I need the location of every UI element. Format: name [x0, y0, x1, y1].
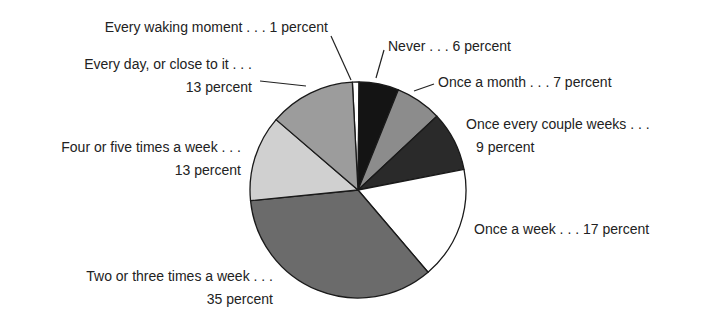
leader-once-month	[414, 84, 434, 91]
label-every-waking-moment: Every waking moment . . . 1 percent	[105, 19, 328, 36]
label-two-three-line2: 35 percent	[86, 291, 273, 308]
label-every-day-line1: Every day, or close to it . . .	[84, 56, 252, 73]
label-every-day: Every day, or close to it . . . 13 perce…	[84, 56, 252, 96]
label-couple-weeks-line2: 9 percent	[466, 139, 650, 156]
label-couple-weeks-line1: Once every couple weeks . . .	[466, 116, 650, 133]
label-four-five-line2: 13 percent	[61, 162, 241, 179]
label-four-five-line1: Four or five times a week . . .	[61, 139, 241, 156]
label-once-month: Once a month . . . 7 percent	[438, 74, 612, 91]
leader-every-waking	[331, 36, 351, 80]
label-couple-weeks: Once every couple weeks . . . 9 percent	[466, 116, 650, 156]
label-two-three-line1: Two or three times a week . . .	[86, 268, 273, 285]
pie-slices	[250, 82, 466, 298]
label-every-day-line2: 13 percent	[84, 79, 252, 96]
leader-never	[376, 50, 384, 78]
label-never: Never . . . 6 percent	[388, 38, 511, 55]
leader-every-day	[260, 81, 306, 86]
label-once-week: Once a week . . . 17 percent	[474, 221, 649, 238]
label-two-three: Two or three times a week . . . 35 perce…	[86, 268, 273, 308]
label-four-five: Four or five times a week . . . 13 perce…	[61, 139, 241, 179]
